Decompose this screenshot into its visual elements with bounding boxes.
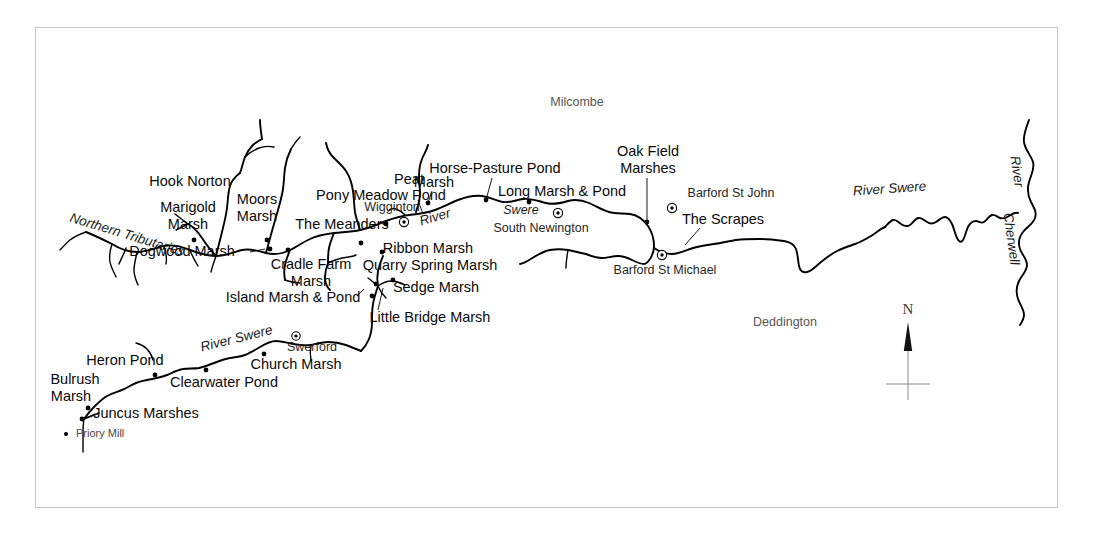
label-ribbon-marsh: Ribbon Marsh [383, 240, 473, 256]
label-long-marsh-and-pond: Long Marsh & Pond [498, 183, 626, 199]
label-river-cherwell-lower: Cherwell [1001, 212, 1023, 267]
marsh-dot-ribbon [359, 241, 364, 246]
marsh-label-layer: Hook Norton Marigold Marsh Moors Marsh D… [50, 143, 764, 421]
marsh-dot-cradle-b [286, 248, 291, 253]
marsh-dot-moors [265, 238, 270, 243]
marsh-dot-dogwood [192, 238, 197, 243]
tributary-south-newington-spur [566, 250, 568, 268]
settlement-marker-barford-st-john [667, 203, 676, 212]
settlement-marker-barford-st-michael [657, 250, 666, 259]
marsh-dot-sedge-a [374, 282, 379, 287]
label-moors-marsh-line1: Moors [237, 191, 277, 207]
label-bulrush-marsh-line2: Marsh [51, 388, 91, 404]
label-river-swere-swere: Swere [503, 203, 538, 217]
label-priory-mill: Priory Mill [76, 427, 124, 439]
label-peat-marsh-line2: Marsh [414, 174, 454, 190]
label-milcombe: Milcombe [550, 95, 604, 109]
label-church-marsh: Church Marsh [250, 356, 341, 372]
label-south-newington: South Newington [493, 221, 588, 235]
label-river-cherwell-upper: River [1008, 155, 1027, 189]
label-marigold-marsh-line1: Marigold [160, 199, 216, 215]
leader-the-scrapes [685, 228, 700, 245]
label-horse-pasture-pond: Horse-Pasture Pond [429, 160, 560, 176]
marsh-dot-juncus [80, 417, 85, 422]
settlement-marker-south-newington [553, 208, 562, 217]
label-the-meanders: The Meanders [295, 216, 389, 232]
tributary-moors-upper [240, 139, 262, 173]
label-the-scrapes: The Scrapes [682, 211, 764, 227]
label-swerford: Swerford [287, 340, 337, 354]
label-river-swere-river: River [418, 205, 453, 228]
river-cherwell [1017, 120, 1036, 325]
marsh-dot-cradle-a [268, 247, 273, 252]
label-oak-field-marshes-line1: Oak Field [617, 143, 679, 159]
label-oak-field-marshes-line2: Marshes [620, 160, 676, 176]
marsh-dot-oak-field [645, 220, 650, 225]
label-river-swere-south: River Swere [199, 322, 274, 354]
tributary-moors-marsh-top [291, 137, 300, 149]
north-arrow-label: N [903, 301, 914, 317]
marsh-dot-heron [153, 373, 158, 378]
north-arrow-head [904, 322, 912, 351]
label-bulrush-marsh-line1: Bulrush [50, 371, 99, 387]
marsh-dot-clearwater [204, 368, 209, 373]
settlement-marker-swerford [292, 332, 300, 340]
label-island-marsh-and-pond: Island Marsh & Pond [226, 289, 361, 305]
map-figure: Hook Norton Marigold Marsh Moors Marsh D… [0, 0, 1094, 533]
label-juncus-marshes: Juncus Marshes [93, 405, 199, 421]
label-heron-pond: Heron Pond [86, 352, 163, 368]
label-deddington: Deddington [753, 315, 817, 329]
marsh-dot-priory-mill [64, 432, 68, 436]
tributary-south-newington [520, 249, 586, 264]
settlement-marker-wigginton [399, 217, 408, 226]
label-cradle-farm-marsh-line1: Cradle Farm [271, 256, 352, 272]
marsh-dot-horse-pasture [484, 198, 489, 203]
label-barford-st-john: Barford St John [688, 186, 775, 200]
small-label-layer: Priory Mill [76, 427, 124, 439]
label-quarry-spring-marsh: Quarry Spring Marsh [363, 257, 498, 273]
marsh-dot-bulrush [86, 406, 91, 411]
tributary-northwest-1 [60, 232, 86, 250]
river-swere-east-channel [885, 213, 1018, 242]
label-wigginton: Wigginton [364, 200, 420, 214]
label-moors-marsh-line2: Marsh [237, 208, 277, 224]
label-river-swere-east: River Swere [852, 178, 926, 198]
tributary-northwest-2 [110, 244, 116, 277]
label-marigold-marsh-line2: Marsh [168, 216, 208, 232]
label-hook-norton: Hook Norton [149, 173, 230, 189]
label-sedge-marsh: Sedge Marsh [393, 279, 479, 295]
marsh-dot-island [370, 294, 375, 299]
map-border [36, 28, 1058, 508]
tributary-moors-stem [260, 120, 262, 139]
north-arrow: N [886, 301, 930, 400]
label-barford-st-michael: Barford St Michael [614, 263, 717, 277]
map-canvas: Hook Norton Marigold Marsh Moors Marsh D… [0, 0, 1094, 533]
label-clearwater-pond: Clearwater Pond [170, 374, 278, 390]
tributary-northwest-4 [119, 248, 126, 264]
label-little-bridge-marsh: Little Bridge Marsh [370, 309, 491, 325]
label-cradle-farm-marsh-line2: Marsh [291, 273, 331, 289]
